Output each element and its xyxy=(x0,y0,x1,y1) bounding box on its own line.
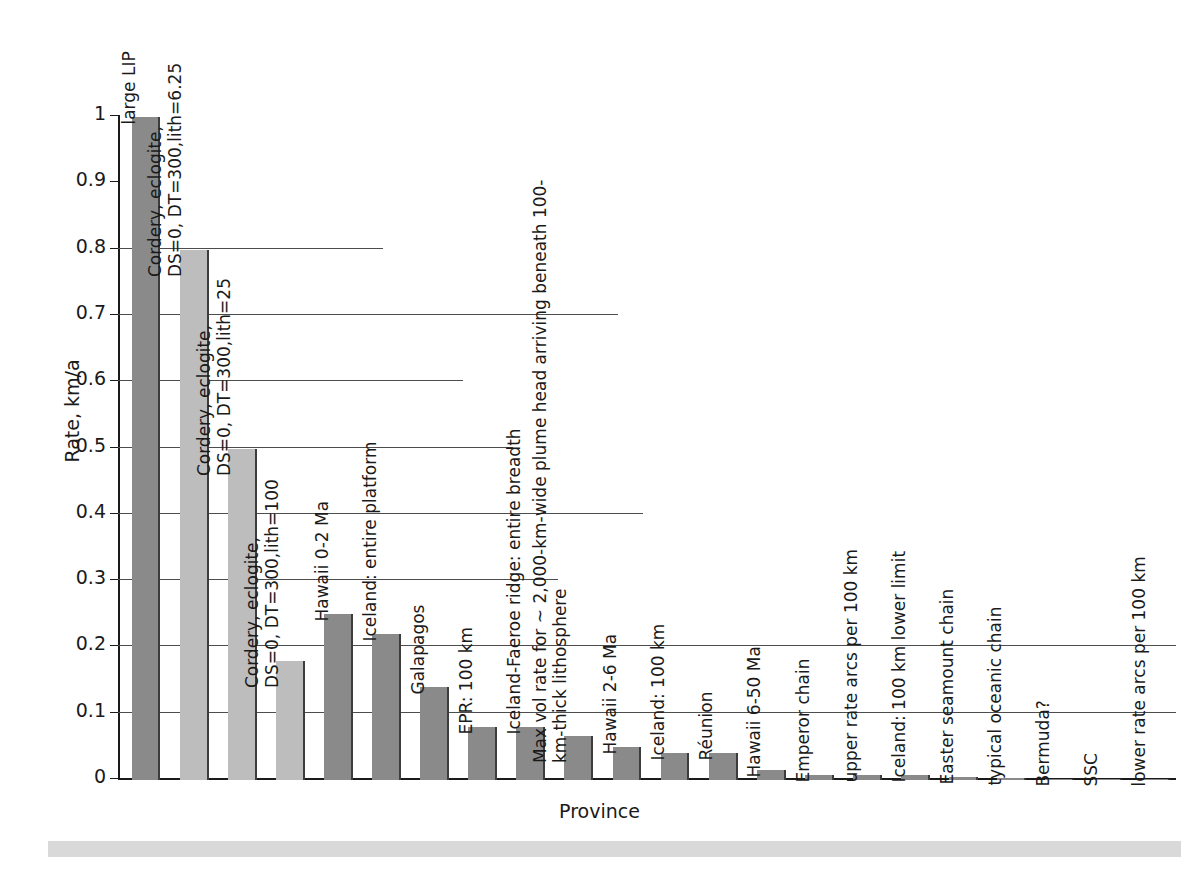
gridline xyxy=(118,447,513,448)
gridline xyxy=(118,380,463,381)
y-tick-mark xyxy=(110,181,118,182)
y-tick-mark xyxy=(110,314,118,315)
category-label: EPR: 100 km xyxy=(457,627,477,735)
y-tick-label: 0.2 xyxy=(36,634,106,653)
category-label: upper rate arcs per 100 km xyxy=(842,549,862,783)
y-tick-mark xyxy=(110,248,118,249)
y-tick-label: 0.5 xyxy=(36,436,106,455)
y-tick-label: 0.3 xyxy=(36,568,106,587)
y-tick-mark xyxy=(110,712,118,713)
y-tick-label: 0.6 xyxy=(36,369,106,388)
x-axis-title: Province xyxy=(0,800,1199,822)
bar xyxy=(372,634,401,780)
category-label: Emperor chain xyxy=(794,658,814,782)
category-label: Réunion xyxy=(698,692,718,761)
y-axis-title: Rate, km/a xyxy=(61,301,83,521)
y-tick-label: 0 xyxy=(36,767,106,786)
category-label: Easter seamount chain xyxy=(938,589,958,785)
category-label: Galapagos xyxy=(409,605,429,695)
category-label: lower rate arcs per 100 km xyxy=(1131,556,1151,786)
y-tick-mark xyxy=(110,645,118,646)
category-label: Iceland: 100 km lower limit xyxy=(890,551,910,783)
y-tick-label: 0.9 xyxy=(36,170,106,189)
y-tick-mark xyxy=(110,778,118,779)
y-tick-label: 0.7 xyxy=(36,303,106,322)
y-tick-mark xyxy=(110,579,118,580)
y-tick-mark xyxy=(110,447,118,448)
category-label: Hawaii 2-6 Ma xyxy=(602,634,622,755)
y-tick-label: 0.4 xyxy=(36,502,106,521)
bar xyxy=(324,614,353,780)
category-label: Hawaii 0-2 Ma xyxy=(313,501,333,622)
y-tick-label: 0.8 xyxy=(36,237,106,256)
y-tick-mark xyxy=(110,513,118,514)
y-tick-label: 1 xyxy=(36,104,106,123)
plot-area: 10.90.80.70.60.50.40.30.20.10 large LIPC… xyxy=(118,115,1176,780)
category-label: typical oceanic chain xyxy=(986,607,1006,786)
bar xyxy=(420,687,449,780)
category-label: Iceland: entire platform xyxy=(361,442,381,642)
category-label: Iceland: 100 km xyxy=(650,624,670,761)
y-axis-line xyxy=(118,115,120,780)
bar-chart-figure: Rate, km/a Province 10.90.80.70.60.50.40… xyxy=(0,0,1199,877)
category-label: Bermuda? xyxy=(1034,700,1054,786)
category-label: Iceland-Faeroe ridge: entire breadth xyxy=(505,428,525,734)
y-tick-mark xyxy=(110,380,118,381)
y-tick-label: 0.1 xyxy=(36,701,106,720)
category-label: Hawaii 6-50 Ma xyxy=(746,646,766,777)
y-tick-mark xyxy=(110,115,118,116)
category-label: large LIP xyxy=(121,51,141,124)
bottom-strip xyxy=(48,841,1181,857)
category-label: SSC xyxy=(1083,753,1103,786)
bar xyxy=(468,727,497,780)
